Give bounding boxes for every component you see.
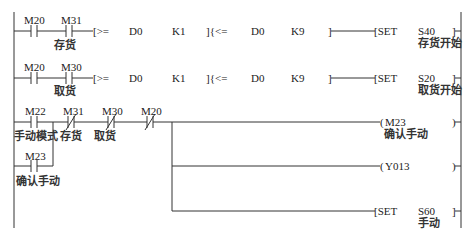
compare-open: ]{<= (206, 25, 227, 37)
compare-open: [>= (93, 72, 109, 84)
compare-open: [>= (93, 25, 109, 37)
contact-label: M30 (102, 105, 123, 117)
contact-comment: 存货 (54, 40, 76, 52)
output-addr: S20 (418, 72, 435, 84)
compare-operand: D0 (251, 25, 264, 37)
output-addr: S60 (418, 205, 435, 217)
contact-label: M31 (63, 105, 84, 117)
output-instr: [SET (374, 72, 397, 84)
contact-comment: 取货 (94, 131, 116, 143)
compare-close: ] (328, 25, 332, 37)
compare-open: ]{<= (206, 72, 227, 84)
output-comment: 取货开始 (418, 85, 462, 97)
compare-operand: D0 (129, 25, 142, 37)
contact-label: M23 (25, 150, 46, 162)
compare-operand: D0 (129, 72, 142, 84)
output-close: ] (452, 25, 456, 37)
contact-label: M20 (24, 61, 45, 73)
output-addr: Y013 (385, 160, 409, 172)
contact-comment: 手动模式 (14, 131, 58, 143)
contact-comment: 存货 (60, 131, 82, 143)
output-comment: 手动 (418, 218, 440, 230)
output-close: ) (452, 116, 456, 128)
output-addr: S40 (418, 25, 435, 37)
output-close: ] (452, 205, 456, 217)
contact-comment: 取货 (54, 86, 76, 98)
compare-operand: K9 (291, 72, 304, 84)
contact-comment: 确认手动 (16, 176, 60, 188)
output-comment: 确认手动 (384, 129, 428, 141)
contact-label: M22 (25, 105, 46, 117)
contact-label: M20 (24, 14, 45, 26)
output-instr: ( (380, 116, 384, 128)
compare-operand: K1 (172, 25, 185, 37)
compare-operand: D0 (251, 72, 264, 84)
output-instr: [SET (374, 205, 397, 217)
output-close: ] (452, 72, 456, 84)
contact-label: M31 (61, 14, 82, 26)
contact-label: M30 (61, 61, 82, 73)
output-comment: 存货开始 (418, 38, 462, 50)
compare-operand: K1 (172, 72, 185, 84)
output-instr: [SET (374, 25, 397, 37)
output-addr: M23 (385, 116, 406, 128)
output-instr: ( (380, 160, 384, 172)
contact-label: M20 (141, 105, 162, 117)
compare-close: ] (328, 72, 332, 84)
output-close: ) (452, 160, 456, 172)
compare-operand: K9 (291, 25, 304, 37)
